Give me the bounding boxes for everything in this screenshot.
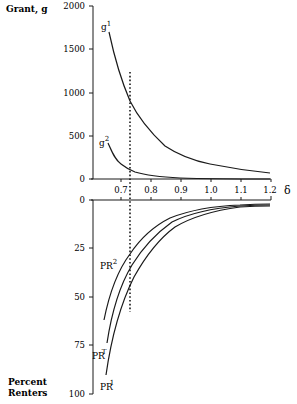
top-y-axis-label: Grant, g — [6, 4, 48, 15]
y-tick-pr-25: 25 — [74, 243, 85, 253]
bottom-x-axis — [91, 196, 271, 200]
y-tick-0: 0 — [80, 174, 85, 184]
y-tick-pr-0: 0 — [80, 195, 85, 205]
label-g2: g2 — [99, 135, 109, 148]
bottom-y-axis — [89, 200, 93, 394]
curve-g1 — [109, 32, 270, 173]
curve-prt — [107, 205, 270, 343]
bottom-y-axis-label-line1: Percent — [8, 377, 48, 387]
x-tick-1.2: 1.2 — [263, 185, 277, 195]
y-tick-1000: 1000 — [63, 88, 85, 98]
x-axis-delta-symbol: δ — [284, 184, 291, 197]
y-tick-pr-75: 75 — [74, 340, 85, 350]
x-tick-1.0: 1.0 — [204, 185, 218, 195]
curve-g2 — [108, 143, 270, 179]
y-tick-500: 500 — [69, 131, 85, 141]
x-tick-labels: 0.7 0.8 0.9 1.0 1.1 1.2 — [114, 185, 277, 195]
top-y-tick-labels: 2000 1500 1000 500 0 — [63, 1, 85, 184]
bottom-y-tick-labels: 0 25 50 75 100 — [69, 195, 85, 399]
chart-canvas: Grant, g 2000 1500 1000 500 0 0.7 0.8 0.… — [0, 0, 297, 404]
label-pr2: PR2 — [100, 258, 117, 271]
label-prt: PRT — [92, 348, 107, 361]
y-tick-pr-100: 100 — [69, 389, 85, 399]
label-g1: g1 — [101, 20, 111, 32]
x-tick-0.9: 0.9 — [174, 185, 188, 195]
y-tick-pr-50: 50 — [74, 292, 85, 302]
x-tick-0.8: 0.8 — [144, 185, 158, 195]
y-tick-2000: 2000 — [63, 1, 85, 11]
top-y-axis — [89, 6, 93, 179]
y-tick-1500: 1500 — [63, 44, 85, 54]
x-tick-1.1: 1.1 — [234, 185, 248, 195]
bottom-y-axis-label-line2: Renters — [8, 388, 47, 398]
x-tick-0.7: 0.7 — [114, 185, 128, 195]
curve-pr1 — [106, 206, 270, 375]
label-pr1: PR1 — [100, 379, 114, 392]
